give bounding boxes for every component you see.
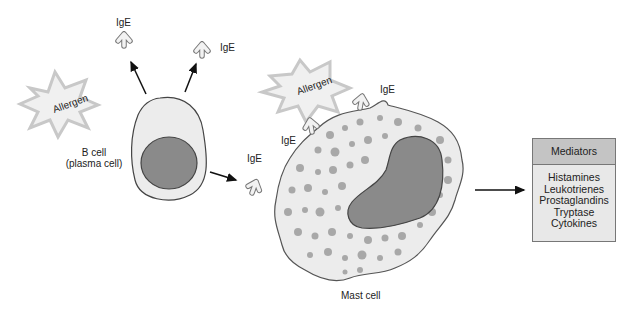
label-b-cell-line2: (plasma cell): [62, 158, 126, 169]
b-cell: [132, 97, 207, 200]
arrow-b-cell-to-ige-right: [185, 64, 196, 92]
mediator-item: Prostaglandins: [533, 195, 615, 207]
label-ige-mast-left: IgE: [281, 135, 296, 146]
label-ige-top-left: IgE: [116, 17, 131, 28]
mediators-list: Histamines Leukotrienes Prostaglandins T…: [533, 165, 615, 230]
mediator-item: Histamines: [533, 172, 615, 184]
label-ige-mast-top: IgE: [380, 84, 395, 95]
label-b-cell: B cell (plasma cell): [62, 147, 126, 169]
label-b-cell-line1: B cell: [62, 147, 126, 158]
mediators-box: Mediators Histamines Leukotrienes Prosta…: [532, 138, 616, 242]
label-mast-cell: Mast cell: [341, 290, 380, 301]
ige-antibody-free-icon: [246, 180, 261, 195]
ige-antibody-top-right-icon: [196, 44, 208, 56]
mediator-item: Cytokines: [533, 218, 615, 230]
ige-antibody-mast-top-icon: [354, 95, 368, 109]
label-ige-free: IgE: [247, 153, 262, 164]
b-cell-nucleus: [141, 137, 197, 189]
label-ige-top-right: IgE: [220, 42, 235, 53]
mediators-title: Mediators: [533, 139, 615, 165]
arrow-b-cell-to-ige-left: [131, 62, 146, 94]
ige-antibody-top-left-icon: [118, 34, 130, 46]
arrow-b-cell-to-free-ige: [210, 172, 236, 180]
